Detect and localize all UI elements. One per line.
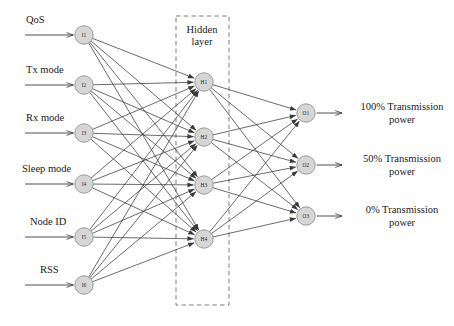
input-signal-label: Sleep mode	[22, 163, 71, 176]
edge-hidden-to-output	[213, 85, 296, 110]
neuron-node-o3: O3	[297, 207, 315, 225]
input-to-hidden-edges	[89, 38, 199, 281]
neuron-label: I1	[82, 32, 87, 38]
hidden-layer-caption-line2: layer	[176, 36, 228, 48]
neuron-label: O1	[303, 110, 310, 116]
neuron-label: H1	[201, 79, 208, 85]
output-result-line1: 100% Transmission	[348, 101, 454, 114]
input-signal-label: Tx mode	[26, 64, 64, 77]
output-result-label: 100% Transmissionpower	[348, 101, 454, 126]
neuron-label: I4	[82, 181, 87, 187]
input-signal-label: Node ID	[30, 216, 66, 229]
hidden-to-output-edges	[210, 85, 300, 237]
edge-hidden-to-output	[211, 171, 297, 233]
neuron-label: H2	[201, 134, 208, 140]
edge-input-to-hidden	[90, 92, 198, 231]
input-signal-label: RSS	[40, 264, 59, 277]
neuron-label: O3	[303, 213, 310, 219]
neuron-node-i3: I3	[75, 124, 93, 142]
neuron-node-o2: O2	[297, 156, 315, 174]
edge-hidden-to-output	[210, 121, 300, 232]
neuron-node-h2: H2	[195, 128, 213, 146]
input-signal-label: QoS	[26, 14, 45, 27]
edge-input-to-hidden	[90, 42, 198, 177]
edge-hidden-to-output	[213, 139, 296, 162]
edge-input-to-hidden	[92, 137, 194, 181]
neuron-node-o1: O1	[297, 104, 315, 122]
output-result-line2: power	[348, 217, 454, 230]
neuron-node-h1: H1	[195, 73, 213, 91]
neuron-node-i2: I2	[75, 76, 93, 94]
output-result-line1: 50% Transmission	[348, 153, 454, 166]
neuron-label: H4	[201, 236, 208, 242]
edge-hidden-to-output	[213, 115, 296, 135]
neuron-node-h3: H3	[195, 176, 213, 194]
edge-input-to-hidden	[92, 86, 194, 129]
edge-input-to-hidden	[93, 82, 193, 85]
neuron-node-h4: H4	[195, 230, 213, 248]
neuron-node-i1: I1	[75, 26, 93, 44]
neuron-nodes: I1I2I3I4I5I6H1H2H3H4O1O2O3	[75, 26, 315, 294]
edge-hidden-to-output	[212, 119, 298, 180]
neuron-node-i6: I6	[75, 276, 93, 294]
hidden-layer-caption-line1: Hidden	[176, 24, 228, 36]
output-result-line2: power	[348, 166, 454, 179]
output-result-line1: 0% Transmission	[348, 204, 454, 217]
edge-input-to-hidden	[93, 243, 195, 282]
edge-input-to-hidden	[91, 41, 196, 130]
neuron-label: I5	[82, 234, 87, 240]
neuron-label: I2	[82, 82, 87, 88]
input-signal-label: Rx mode	[26, 112, 64, 125]
output-result-label: 50% Transmissionpower	[348, 153, 454, 178]
output-signal-arrows	[317, 113, 342, 216]
neuron-label: H3	[201, 182, 208, 188]
neuron-label: I6	[82, 282, 87, 288]
neuron-label: I3	[82, 130, 87, 136]
edge-hidden-to-output	[213, 218, 296, 237]
edge-input-to-hidden	[91, 192, 196, 279]
edge-hidden-to-output	[213, 188, 296, 213]
edge-input-to-hidden	[92, 89, 194, 133]
output-result-label: 0% Transmissionpower	[348, 204, 454, 229]
edge-input-to-hidden	[93, 237, 193, 239]
neuron-node-i4: I4	[75, 175, 93, 193]
neural-network-diagram: I1I2I3I4I5I6H1H2H3H4O1O2O3 QoSTx modeRx …	[0, 0, 454, 326]
neuron-node-i5: I5	[75, 228, 93, 246]
hidden-layer-caption: Hidden layer	[176, 24, 228, 48]
neuron-label: O2	[303, 162, 310, 168]
output-result-line2: power	[348, 114, 454, 127]
